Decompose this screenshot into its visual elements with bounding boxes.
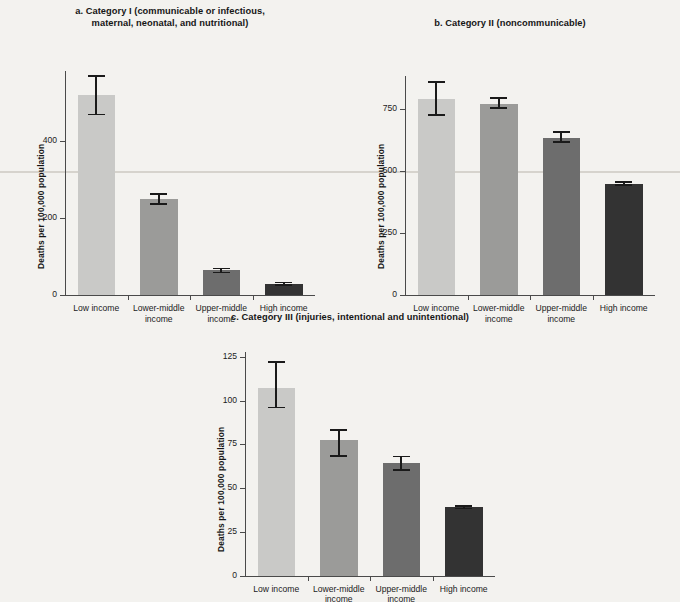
y-tick-label-b-2: 500 — [349, 165, 397, 175]
y-tick-b-3 — [400, 109, 405, 110]
axes-c: 0255075100125Low incomeLower-middleincom… — [245, 352, 495, 576]
x-tick-c-1 — [370, 576, 371, 581]
category-label-c-2: Upper-middleincome — [366, 584, 437, 602]
error-bar-cap-upper-b-2 — [553, 131, 570, 133]
panel-c-title: c. Category III (injuries, intentional a… — [180, 312, 520, 324]
error-bar-line-c-2 — [400, 457, 402, 470]
bar-c-3 — [445, 507, 483, 575]
error-bar-cap-upper-c-1 — [330, 429, 347, 431]
y-tick-c-0 — [240, 576, 245, 577]
error-bar-cap-upper-c-2 — [393, 456, 410, 458]
figure-canvas: a. Category I (communicable or infectiou… — [0, 0, 680, 602]
error-bar-cap-upper-b-3 — [615, 181, 632, 183]
error-bar-cap-upper-a-2 — [213, 268, 230, 270]
x-tick-a-1 — [190, 295, 191, 300]
category-label-c-0: Low income — [241, 584, 312, 595]
y-tick-c-3 — [240, 444, 245, 445]
error-bar-cap-lower-a-2 — [213, 272, 230, 274]
bar-b-0 — [418, 99, 456, 295]
error-bar-cap-lower-c-2 — [393, 469, 410, 471]
chart-panel-c: c. Category III (injuries, intentional a… — [180, 312, 520, 602]
error-bar-cap-upper-a-1 — [150, 193, 167, 195]
y-tick-label-b-3: 750 — [349, 103, 397, 113]
bar-c-1 — [320, 440, 358, 576]
y-tick-c-1 — [240, 532, 245, 533]
category-label-a-0: Low income — [61, 303, 132, 314]
y-tick-label-b-1: 250 — [349, 227, 397, 237]
y-tick-label-c-2: 50 — [189, 482, 237, 492]
error-bar-cap-upper-c-3 — [455, 505, 472, 507]
error-bar-cap-upper-c-0 — [268, 361, 285, 363]
y-axis-line — [65, 71, 66, 295]
category-label-b-3: High income — [589, 303, 660, 314]
error-bar-cap-lower-c-0 — [268, 407, 285, 409]
category-label-b-2: Upper-middleincome — [526, 303, 597, 324]
y-tick-label-c-0: 0 — [189, 570, 237, 580]
error-bar-cap-lower-a-3 — [275, 284, 292, 286]
x-tick-b-1 — [530, 295, 531, 300]
x-tick-b-2 — [593, 295, 594, 300]
y-tick-label-a-1: 200 — [9, 212, 57, 222]
x-tick-c-2 — [433, 576, 434, 581]
bar-b-1 — [480, 104, 518, 296]
y-tick-label-c-5: 125 — [189, 351, 237, 361]
y-tick-label-a-2: 400 — [9, 135, 57, 145]
panel-a-title-line-1: a. Category I (communicable or infectiou… — [14, 6, 326, 18]
error-bar-line-c-0 — [275, 362, 277, 408]
error-bar-line-b-0 — [435, 82, 437, 116]
y-tick-a-2 — [60, 141, 65, 142]
chart-panel-a: a. Category I (communicable or infectiou… — [0, 6, 340, 312]
y-tick-label-c-4: 100 — [189, 395, 237, 405]
error-bar-cap-lower-b-0 — [428, 114, 445, 116]
y-tick-a-1 — [60, 218, 65, 219]
y-tick-label-a-0: 0 — [9, 289, 57, 299]
x-tick-c-0 — [308, 576, 309, 581]
axes-a: 0200400Low incomeLower-middleincomeUpper… — [65, 71, 315, 295]
y-axis-line — [245, 352, 246, 576]
panel-c-title-line-1: c. Category III (injuries, intentional a… — [194, 312, 506, 324]
panel-b-title-line-1: b. Category II (noncommunicable) — [354, 18, 666, 30]
error-bar-cap-upper-b-1 — [490, 97, 507, 99]
y-tick-a-0 — [60, 295, 65, 296]
y-tick-label-c-1: 25 — [189, 526, 237, 536]
category-label-c-3: High income — [429, 584, 500, 595]
error-bar-cap-lower-b-3 — [615, 184, 632, 186]
x-tick-a-0 — [128, 295, 129, 300]
y-axis-label-a: Deaths per 100,000 population — [36, 144, 46, 269]
bar-b-3 — [605, 184, 643, 295]
x-tick-b-0 — [468, 295, 469, 300]
error-bar-cap-lower-a-1 — [150, 203, 167, 205]
y-axis-label-b: Deaths per 100,000 population — [376, 144, 386, 269]
x-tick-a-2 — [253, 295, 254, 300]
panel-b-title: b. Category II (noncommunicable) — [340, 6, 680, 29]
error-bar-cap-upper-a-0 — [88, 75, 105, 77]
bar-c-0 — [258, 388, 296, 575]
bar-a-1 — [140, 199, 178, 295]
y-tick-b-1 — [400, 233, 405, 234]
error-bar-cap-lower-a-0 — [88, 114, 105, 116]
y-tick-c-4 — [240, 401, 245, 402]
error-bar-cap-upper-b-0 — [428, 81, 445, 83]
error-bar-line-c-1 — [338, 430, 340, 455]
bar-a-0 — [78, 95, 116, 295]
bar-a-2 — [203, 270, 241, 295]
category-label-c-1: Lower-middleincome — [304, 584, 375, 602]
error-bar-cap-lower-c-3 — [455, 508, 472, 510]
panel-a-title-line-2: maternal, neonatal, and nutritional) — [14, 18, 326, 30]
error-bar-line-a-0 — [95, 76, 97, 114]
y-tick-label-b-0: 0 — [349, 289, 397, 299]
y-axis-line — [405, 76, 406, 295]
error-bar-cap-lower-b-2 — [553, 141, 570, 143]
axes-b: 0250500750Low incomeLower-middleincomeUp… — [405, 76, 655, 295]
y-tick-c-2 — [240, 488, 245, 489]
chart-panel-b: b. Category II (noncommunicable) 0250500… — [340, 6, 680, 312]
bar-b-2 — [543, 138, 581, 296]
error-bar-cap-lower-c-1 — [330, 455, 347, 457]
y-tick-b-0 — [400, 295, 405, 296]
y-tick-b-2 — [400, 171, 405, 172]
y-tick-c-5 — [240, 357, 245, 358]
panel-a-title: a. Category I (communicable or infectiou… — [0, 6, 340, 29]
y-tick-label-c-3: 75 — [189, 438, 237, 448]
y-axis-label-c: Deaths per 100,000 population — [216, 426, 226, 551]
error-bar-cap-lower-b-1 — [490, 107, 507, 109]
